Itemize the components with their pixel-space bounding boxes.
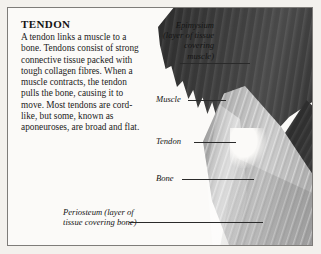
label-epimysium: Epimysium (layer of tissue covering musc… bbox=[126, 20, 214, 61]
label-periosteum: Periosteum (layer of tissue covering bon… bbox=[63, 207, 137, 227]
label-tendon: Tendon bbox=[156, 136, 181, 146]
figure-frame: TENDON A tendon links a muscle to a bone… bbox=[7, 7, 313, 246]
leader-line-muscle bbox=[188, 100, 226, 101]
label-bone: Bone bbox=[156, 173, 174, 183]
leader-line-bone bbox=[182, 179, 254, 180]
leader-line-periosteum bbox=[129, 222, 263, 223]
tendon-notch-shadow bbox=[230, 128, 266, 168]
leader-line-epimysium bbox=[180, 63, 250, 64]
leader-line-tendon bbox=[194, 142, 236, 143]
figure-page: TENDON A tendon links a muscle to a bone… bbox=[0, 0, 321, 254]
label-muscle: Muscle bbox=[156, 94, 181, 104]
